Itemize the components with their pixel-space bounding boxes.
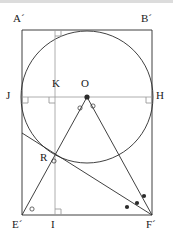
angle-mark-r	[52, 159, 56, 163]
angle-mark-e	[30, 207, 34, 211]
label-r: R	[40, 152, 47, 163]
label-j: J	[6, 90, 10, 101]
label-k: K	[52, 78, 60, 89]
angle-dot-f-upper	[142, 194, 146, 198]
label-f-prime: F´	[146, 219, 156, 230]
label-h: H	[156, 90, 164, 101]
right-angle-at-K	[49, 97, 55, 103]
geometry-canvas	[0, 0, 173, 243]
label-e-prime: E´	[12, 219, 22, 230]
label-i: I	[51, 219, 55, 230]
right-angle-at-J	[22, 97, 28, 103]
label-b-prime: B´	[141, 13, 152, 24]
vertex-dot-o	[84, 94, 89, 99]
label-a-prime: A´	[13, 13, 25, 24]
segment-O-to-E	[22, 97, 87, 215]
angle-dot-f-middle	[135, 201, 139, 205]
segment-O-to-F	[87, 97, 152, 215]
geometry-figure: A´ B´ J K O H R E´ I F´	[0, 0, 173, 243]
label-o: O	[81, 78, 89, 89]
angle-dot-f-lower	[125, 205, 129, 209]
right-angle-at-I	[55, 209, 61, 215]
right-angle-at-H	[146, 97, 152, 103]
right-angle-at-top-K	[55, 30, 61, 36]
